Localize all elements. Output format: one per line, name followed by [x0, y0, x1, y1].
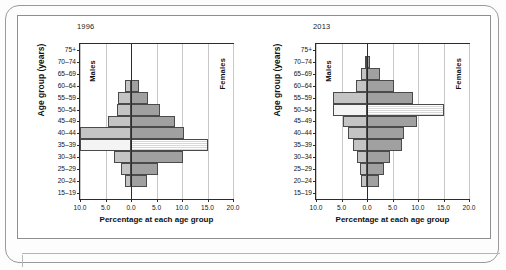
x-tick-label-2: 0.0: [126, 204, 135, 211]
bar-row: 20–24: [80, 175, 233, 187]
x-tick-label-5: 15.0: [437, 204, 450, 211]
y-tick-mark: [77, 169, 80, 170]
bar-row: 15–19: [316, 187, 469, 199]
gridline-20.0: [233, 44, 234, 199]
y-tick-label-45–49: 45–49: [294, 118, 312, 125]
bar-row: 15–19: [80, 187, 233, 199]
bar-row: 55–59: [80, 92, 233, 104]
x-tick-mark: [233, 199, 234, 202]
y-tick-mark: [313, 121, 316, 122]
y-tick-label-40–44: 40–44: [294, 130, 312, 137]
y-tick-mark: [77, 74, 80, 75]
x-tick-label-4: 10.0: [176, 204, 189, 211]
bar-row: 75+: [80, 44, 233, 56]
y-tick-label-30–34: 30–34: [294, 154, 312, 161]
bar-row: 30–34: [80, 151, 233, 163]
y-tick-label-50–54: 50–54: [294, 106, 312, 113]
bar-females-60–64: [131, 80, 139, 92]
y-tick-mark: [77, 110, 80, 111]
y-tick-label-65–69: 65–69: [58, 71, 76, 78]
bar-females-20–24: [367, 175, 379, 187]
bar-females-25–29: [367, 163, 384, 175]
bar-females-25–29: [131, 163, 158, 175]
y-tick-label-40–44: 40–44: [58, 130, 76, 137]
x-tick-mark: [131, 199, 132, 202]
y-tick-label-35–39: 35–39: [294, 142, 312, 149]
chart-1996-year-label: 1996: [77, 22, 95, 31]
bar-males-25–29: [121, 163, 131, 175]
y-tick-mark: [313, 145, 316, 146]
gridline-20.0: [469, 44, 470, 199]
bar-row: 70–74: [80, 56, 233, 68]
bar-females-40–44: [367, 127, 404, 139]
bar-females-30–34: [131, 151, 183, 163]
y-tick-mark: [77, 145, 80, 146]
bar-males-55–59: [333, 92, 367, 104]
chart-1996: 1996 Age group (years) Males Females 75+…: [17, 15, 253, 237]
x-tick-label-2: 0.0: [362, 204, 371, 211]
x-tick-label-3: 5.0: [388, 204, 397, 211]
x-tick-label-1: 5.0: [101, 204, 110, 211]
bar-females-60–64: [367, 80, 394, 92]
y-tick-mark: [77, 193, 80, 194]
x-tick-mark: [182, 199, 183, 202]
bar-males-40–44: [348, 127, 367, 139]
y-tick-mark: [313, 110, 316, 111]
x-tick-mark: [342, 199, 343, 202]
bar-females-50–54: [131, 104, 160, 116]
bar-females-45–49: [367, 116, 417, 128]
bar-row: 50–54: [80, 104, 233, 116]
x-tick-label-4: 10.0: [412, 204, 425, 211]
y-tick-label-25–29: 25–29: [58, 166, 76, 173]
y-tick-label-15–19: 15–19: [58, 190, 76, 197]
bar-females-45–49: [131, 116, 175, 128]
x-tick-mark: [469, 199, 470, 202]
bar-row: 35–39: [80, 139, 233, 151]
x-tick-label-0: 10.0: [310, 204, 323, 211]
bar-males-60–64: [356, 80, 367, 92]
y-tick-mark: [313, 98, 316, 99]
y-tick-label-60–64: 60–64: [58, 82, 76, 89]
bar-row: 35–39: [316, 139, 469, 151]
x-tick-mark: [80, 199, 81, 202]
bar-row: 60–64: [80, 80, 233, 92]
y-tick-mark: [313, 86, 316, 87]
y-tick-mark: [313, 62, 316, 63]
bar-row: 55–59: [316, 92, 469, 104]
bar-females-35–39: [131, 139, 208, 151]
bar-males-35–39: [80, 139, 131, 151]
y-tick-label-70–74: 70–74: [58, 59, 76, 66]
page-bottom-rule: [22, 253, 500, 254]
y-tick-mark: [313, 74, 316, 75]
y-tick-mark: [77, 181, 80, 182]
x-tick-label-3: 5.0: [152, 204, 161, 211]
bar-row: 65–69: [80, 68, 233, 80]
chart-2013-x-axis-title: Percentage at each age group: [315, 215, 470, 224]
y-tick-mark: [313, 50, 316, 51]
chart-1996-x-axis-title: Percentage at each age group: [79, 215, 234, 224]
bar-males-45–49: [343, 116, 367, 128]
y-tick-label-20–24: 20–24: [294, 178, 312, 185]
bar-males-50–54: [333, 104, 367, 116]
x-tick-mark: [418, 199, 419, 202]
x-tick-mark: [444, 199, 445, 202]
bar-females-65–69: [367, 68, 380, 80]
chart-2013-y-axis-title: Age group (years): [272, 25, 282, 135]
bar-row: 45–49: [316, 116, 469, 128]
charts-container: 1996 Age group (years) Males Females 75+…: [17, 15, 489, 237]
bar-row: 40–44: [316, 127, 469, 139]
bar-males-55–59: [118, 92, 131, 104]
y-tick-mark: [313, 193, 316, 194]
x-tick-mark: [367, 199, 368, 202]
x-tick-mark: [316, 199, 317, 202]
x-tick-label-6: 20.0: [463, 204, 476, 211]
x-tick-label-6: 20.0: [227, 204, 240, 211]
y-tick-mark: [77, 133, 80, 134]
bar-females-50–54: [367, 104, 444, 116]
bar-males-25–29: [360, 163, 367, 175]
bar-females-35–39: [367, 139, 402, 151]
bar-males-45–49: [108, 116, 131, 128]
x-tick-label-5: 15.0: [201, 204, 214, 211]
y-tick-label-20–24: 20–24: [58, 178, 76, 185]
page-left-tick: [22, 255, 23, 267]
